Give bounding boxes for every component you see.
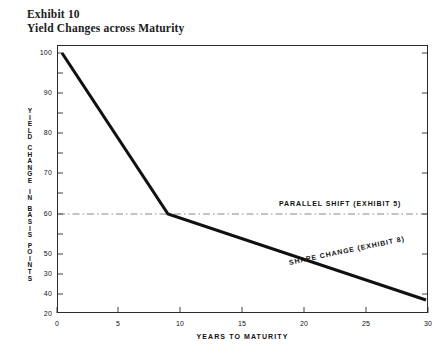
x-tick-label: 10 <box>169 320 191 327</box>
plot-area-frame <box>57 45 428 313</box>
annotation-parallel-shift: PARALLEL SHIFT (EXHIBIT 5) <box>279 200 401 207</box>
x-tick-label: 5 <box>107 320 129 327</box>
y-tick-label: 40 <box>30 290 52 297</box>
x-tick-label: 25 <box>355 320 377 327</box>
y-tick-label: 90 <box>30 89 52 96</box>
y-tick-label-20: 20 <box>30 310 52 317</box>
x-tick-label: 30 <box>417 320 439 327</box>
y-tick-label: 100 <box>30 49 52 56</box>
x-tick-label: 20 <box>293 320 315 327</box>
x-tick-label: 0 <box>46 320 68 327</box>
y-axis-title: YIELDCHANGEINBASISPOINTS <box>24 108 36 282</box>
chart-figure: 100 90 80 70 60 50 40 30 20 30 20 0 5 10… <box>0 0 445 355</box>
x-tick-label: 15 <box>231 320 253 327</box>
x-axis-title: YEARS TO MATURITY <box>57 333 428 340</box>
